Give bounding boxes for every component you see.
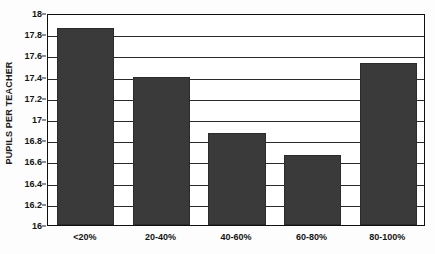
y-tick-label: 16.4	[24, 179, 42, 189]
plot-area	[47, 14, 425, 226]
y-tick-label: 17.8	[24, 30, 42, 40]
x-tick-label: 80-100%	[369, 232, 405, 242]
y-tick-mark	[42, 77, 46, 78]
y-tick-label: 16.2	[24, 200, 42, 210]
bar	[133, 77, 190, 225]
y-tick-label: 17.4	[24, 73, 42, 83]
x-tick-label: 60-80%	[296, 232, 327, 242]
y-tick-mark	[42, 14, 46, 15]
y-axis-tick-labels: 1817.817.617.417.21716.816.616.416.216	[14, 14, 46, 226]
x-tick-label: 20-40%	[145, 232, 176, 242]
y-tick-mark	[42, 98, 46, 99]
bar-chart: PUPILS PER TEACHER 1817.817.617.417.2171…	[0, 0, 435, 254]
bar	[57, 28, 114, 225]
y-tick-mark	[42, 56, 46, 57]
y-tick-label: 16.6	[24, 157, 42, 167]
y-tick-mark	[42, 141, 46, 142]
y-tick-label: 16.8	[24, 136, 42, 146]
x-tick-label: <20%	[73, 232, 96, 242]
y-tick-label: 17.6	[24, 51, 42, 61]
y-axis-title-text: PUPILS PER TEACHER	[4, 61, 14, 164]
y-tick-mark	[42, 183, 46, 184]
bar	[360, 63, 417, 225]
y-tick-label: 17	[32, 115, 42, 125]
bar	[284, 155, 341, 225]
x-tick-label: 40-60%	[220, 232, 251, 242]
y-tick-mark	[42, 162, 46, 163]
bars-group	[48, 15, 424, 225]
y-tick-mark	[42, 226, 46, 227]
y-tick-label: 16	[32, 221, 42, 231]
y-tick-mark	[42, 35, 46, 36]
y-tick-mark	[42, 204, 46, 205]
y-tick-label: 18	[32, 9, 42, 19]
x-axis-tick-labels: <20%20-40%40-60%60-80%80-100%	[47, 232, 425, 252]
bar	[208, 133, 265, 225]
y-tick-label: 17.2	[24, 94, 42, 104]
y-tick-mark	[42, 120, 46, 121]
